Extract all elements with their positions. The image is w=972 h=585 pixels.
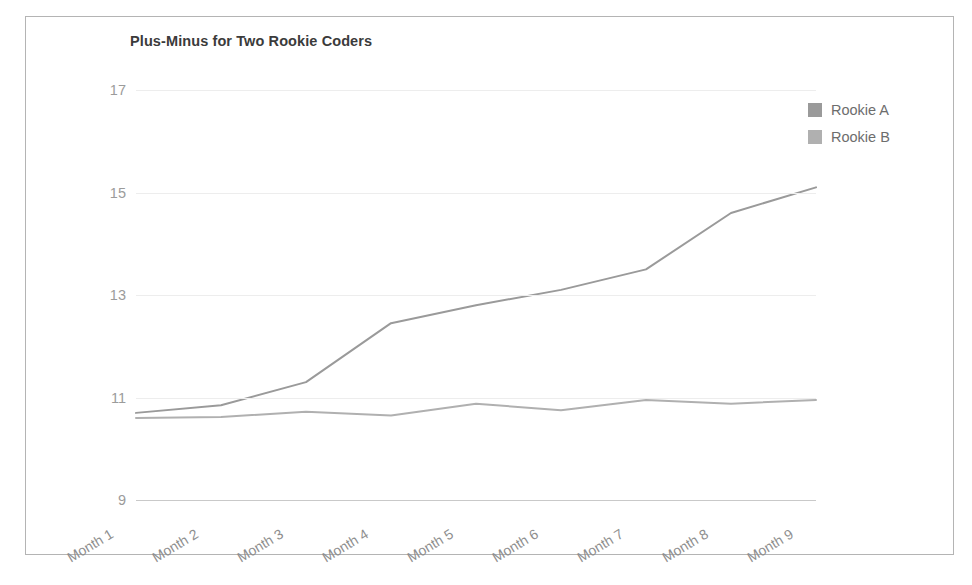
x-tick-label-8: Month 8 <box>659 526 711 566</box>
gridline-11 <box>136 398 816 399</box>
y-tick-label-9: 9 <box>86 492 126 508</box>
chart-legend: Rookie ARookie B <box>808 97 948 151</box>
x-tick-label-4: Month 4 <box>319 526 371 566</box>
legend-label: Rookie A <box>831 102 889 118</box>
gridline-17 <box>136 90 816 91</box>
legend-item-rookie-b[interactable]: Rookie B <box>808 124 948 149</box>
x-tick-label-1: Month 1 <box>64 526 116 566</box>
series-line-rookie-a <box>136 187 816 413</box>
x-tick-label-7: Month 7 <box>574 526 626 566</box>
gridline-15 <box>136 193 816 194</box>
x-tick-label-2: Month 2 <box>149 526 201 566</box>
x-tick-label-6: Month 6 <box>489 526 541 566</box>
chart-frame: Plus-Minus for Two Rookie Coders 9111315… <box>25 16 954 555</box>
series-line-rookie-b <box>136 400 816 418</box>
y-tick-label-17: 17 <box>86 82 126 98</box>
plot-area <box>136 90 816 500</box>
y-axis-labels: 911131517 <box>82 90 126 500</box>
legend-item-rookie-a[interactable]: Rookie A <box>808 97 948 122</box>
y-tick-label-15: 15 <box>86 185 126 201</box>
gridline-13 <box>136 295 816 296</box>
legend-label: Rookie B <box>831 129 890 145</box>
x-tick-label-9: Month 9 <box>744 526 796 566</box>
chart-title: Plus-Minus for Two Rookie Coders <box>130 33 372 49</box>
x-axis-labels: Month 1Month 2Month 3Month 4Month 5Month… <box>136 504 816 584</box>
gridline-9 <box>136 500 816 501</box>
y-tick-label-11: 11 <box>86 390 126 406</box>
y-tick-label-13: 13 <box>86 287 126 303</box>
x-tick-label-3: Month 3 <box>234 526 286 566</box>
legend-swatch-icon <box>808 103 822 117</box>
legend-swatch-icon <box>808 130 822 144</box>
x-tick-label-5: Month 5 <box>404 526 456 566</box>
